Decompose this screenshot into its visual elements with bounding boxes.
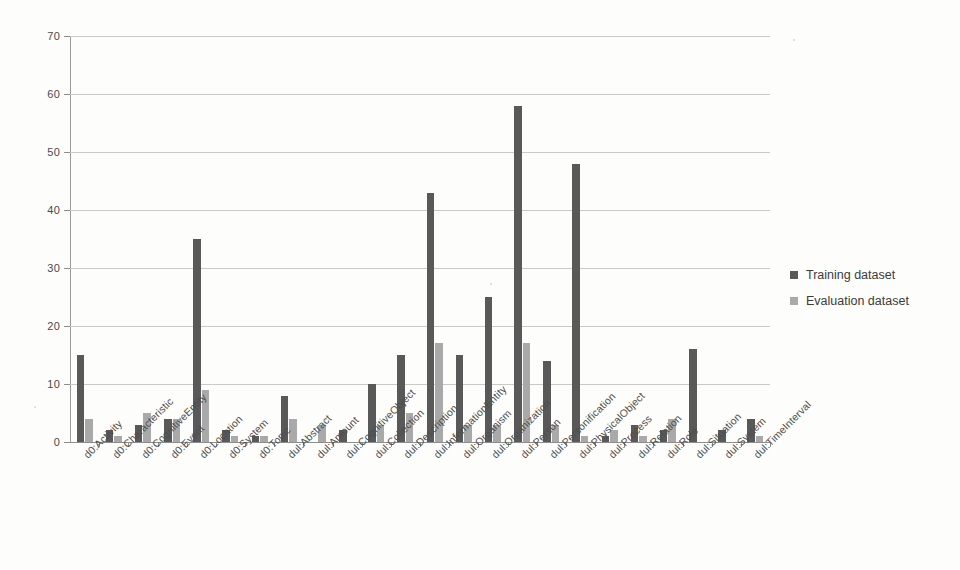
legend-label: Evaluation dataset [806, 294, 909, 308]
legend-item: Training dataset [790, 268, 909, 282]
legend-swatch-icon [790, 271, 798, 279]
chart-legend: Training datasetEvaluation dataset [790, 268, 909, 320]
legend-swatch-icon [790, 297, 798, 305]
legend-item: Evaluation dataset [790, 294, 909, 308]
legend-label: Training dataset [806, 268, 895, 282]
bar-chart: 010203040506070 d0:Activityd0:Characteri… [0, 0, 960, 570]
scan-speck [793, 39, 795, 41]
scan-speck [490, 283, 492, 285]
scan-speck [34, 406, 36, 408]
